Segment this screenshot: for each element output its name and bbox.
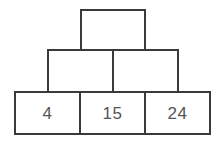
pyramid-row-middle [47,49,179,93]
pyramid-cell-middle-1[interactable] [47,49,114,93]
pyramid-cell-bottom-2[interactable]: 15 [79,91,146,135]
pyramid-cell-top-1[interactable] [80,9,146,51]
number-pyramid-figure: 4 15 24 [0,0,224,143]
pyramid-cell-bottom-3[interactable]: 24 [144,91,211,135]
pyramid-row-bottom: 4 15 24 [14,91,211,135]
pyramid-cell-middle-2[interactable] [112,49,179,93]
pyramid-row-top [80,9,146,51]
pyramid-cell-bottom-1[interactable]: 4 [14,91,81,135]
